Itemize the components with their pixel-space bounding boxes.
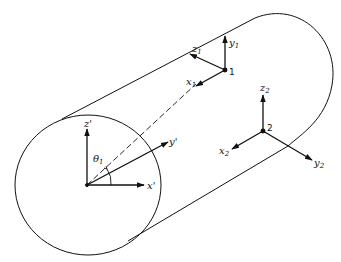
cross-section-frame — [86, 84, 197, 187]
z1-label: z1 — [191, 43, 202, 56]
point-2 — [261, 129, 265, 133]
z-prime-label: z' — [83, 118, 92, 129]
bottom-edge — [128, 146, 288, 241]
y1-label: y1 — [228, 37, 239, 50]
x1-axis — [196, 70, 225, 86]
z2-label: z2 — [259, 82, 270, 95]
point-1-label: 1 — [229, 67, 235, 77]
theta-label: θ1 — [93, 153, 104, 166]
x-prime-label: x' — [147, 180, 155, 191]
y2-label: y2 — [313, 157, 325, 170]
x1-label: x1 — [186, 76, 196, 89]
theta-angle-arc — [107, 169, 111, 185]
y-prime-label: y' — [168, 136, 177, 147]
origin-point — [86, 184, 89, 187]
x2-label: x2 — [219, 145, 230, 158]
z1-axis — [190, 54, 225, 70]
x2-axis — [232, 131, 263, 149]
y2-axis — [263, 131, 312, 160]
cylinder-outline — [15, 14, 333, 255]
theta-angle-arc-small — [104, 166, 107, 169]
cylinder-diagram: z' x' y' θ1 y1 z1 x1 1 z2 x2 y2 2 — [0, 0, 341, 262]
radial-dashed-line — [87, 84, 196, 185]
point-1 — [223, 68, 227, 72]
point-2-label: 2 — [267, 123, 273, 133]
